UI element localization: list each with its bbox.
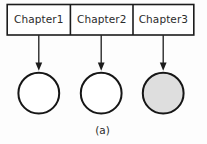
node-circle-3 xyxy=(143,73,184,114)
chapter-cell-label-1: Chapter1 xyxy=(14,13,63,25)
chapter-cell-label-2: Chapter2 xyxy=(77,13,126,25)
node-circle-2 xyxy=(81,73,122,114)
arrow-head-3 xyxy=(160,62,167,70)
figure-caption: (a) xyxy=(95,124,110,136)
chapter-cell-label-3: Chapter3 xyxy=(139,13,188,25)
diagram-canvas: Chapter1 Chapter2 Chapter3 xyxy=(0,0,207,144)
figure-container: Chapter1 Chapter2 Chapter3 xyxy=(0,0,207,144)
chapter-bar: Chapter1 Chapter2 Chapter3 xyxy=(7,5,194,36)
arrow-chapter3-to-node3 xyxy=(160,35,167,71)
node-circle-1 xyxy=(18,73,59,114)
arrow-head-1 xyxy=(35,62,42,70)
arrow-chapter1-to-node1 xyxy=(35,35,42,71)
arrow-chapter2-to-node2 xyxy=(98,35,105,71)
node-group xyxy=(18,73,183,114)
arrow-head-2 xyxy=(98,62,105,70)
arrow-group xyxy=(35,35,166,71)
